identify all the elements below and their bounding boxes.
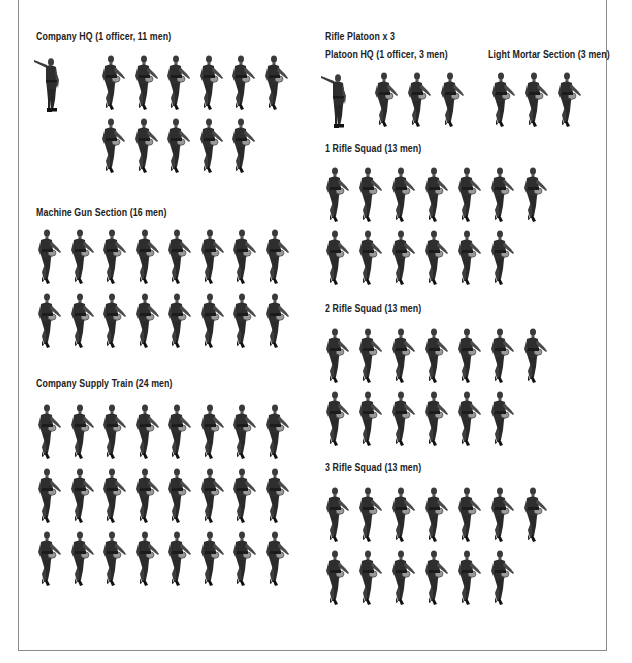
marching-soldier-icon: [166, 467, 194, 525]
marching-soldier-icon: [134, 292, 162, 350]
rifle-squad-3-title: 3 Rifle Squad (13 men): [325, 462, 421, 473]
marching-soldier-icon: [69, 530, 97, 588]
marching-soldier-icon: [198, 54, 226, 112]
marching-soldier-icon: [36, 403, 64, 461]
marching-soldier-icon: [166, 530, 194, 588]
marching-soldier-icon: [101, 530, 129, 588]
marching-soldier-icon: [357, 229, 385, 287]
marching-soldier-icon: [199, 467, 227, 525]
marching-soldier-icon: [456, 327, 484, 385]
marching-soldier-icon: [324, 229, 352, 287]
marching-soldier-icon: [390, 327, 418, 385]
marching-soldier-icon: [390, 486, 418, 544]
marching-soldier-icon: [263, 54, 291, 112]
marching-soldier-icon: [100, 117, 128, 175]
marching-soldier-icon: [69, 467, 97, 525]
marching-soldier-icon: [522, 166, 550, 224]
frame-right-border: [606, 0, 607, 651]
marching-soldier-icon: [101, 403, 129, 461]
marching-soldier-icon: [264, 228, 292, 286]
marching-soldier-icon: [199, 403, 227, 461]
marching-soldier-icon: [523, 71, 551, 129]
marching-soldier-icon: [489, 327, 517, 385]
platoon-hq-title: Platoon HQ (1 officer, 3 men): [325, 49, 448, 60]
frame-bottom-border: [18, 650, 607, 651]
marching-soldier-icon: [101, 467, 129, 525]
marching-soldier-icon: [390, 549, 418, 607]
company-hq-title: Company HQ (1 officer, 11 men): [36, 31, 171, 42]
marching-soldier-icon: [324, 390, 352, 448]
marching-soldier-icon: [439, 71, 467, 129]
marching-soldier-icon: [489, 549, 517, 607]
marching-soldier-icon: [373, 71, 401, 129]
marching-soldier-icon: [423, 327, 451, 385]
marching-soldier-icon: [166, 403, 194, 461]
marching-soldier-icon: [36, 228, 64, 286]
marching-soldier-icon: [134, 228, 162, 286]
marching-soldier-icon: [264, 292, 292, 350]
machine-gun-section-title: Machine Gun Section (16 men): [36, 207, 167, 218]
marching-soldier-icon: [199, 530, 227, 588]
marching-soldier-icon: [230, 117, 258, 175]
marching-soldier-icon: [101, 228, 129, 286]
frame-left-border: [18, 0, 19, 651]
marching-soldier-icon: [231, 292, 259, 350]
marching-soldier-icon: [69, 228, 97, 286]
marching-soldier-icon: [423, 166, 451, 224]
marching-soldier-icon: [231, 467, 259, 525]
marching-soldier-icon: [456, 229, 484, 287]
marching-soldier-icon: [489, 390, 517, 448]
marching-soldier-icon: [264, 403, 292, 461]
marching-soldier-icon: [134, 530, 162, 588]
marching-soldier-icon: [231, 530, 259, 588]
marching-soldier-icon: [423, 229, 451, 287]
marching-soldier-icon: [36, 530, 64, 588]
marching-soldier-icon: [423, 486, 451, 544]
marching-soldier-icon: [166, 228, 194, 286]
light-mortar-section-title: Light Mortar Section (3 men): [488, 49, 610, 60]
marching-soldier-icon: [133, 117, 161, 175]
marching-soldier-icon: [423, 549, 451, 607]
marching-soldier-icon: [406, 71, 434, 129]
marching-soldier-icon: [390, 390, 418, 448]
marching-soldier-icon: [489, 166, 517, 224]
marching-soldier-icon: [230, 54, 258, 112]
marching-soldier-icon: [456, 486, 484, 544]
marching-soldier-icon: [357, 327, 385, 385]
marching-soldier-icon: [134, 467, 162, 525]
marching-soldier-icon: [357, 486, 385, 544]
marching-soldier-icon: [231, 228, 259, 286]
marching-soldier-icon: [423, 390, 451, 448]
rifle-squad-2-title: 2 Rifle Squad (13 men): [325, 303, 421, 314]
marching-soldier-icon: [522, 327, 550, 385]
marching-soldier-icon: [489, 229, 517, 287]
marching-soldier-icon: [36, 292, 64, 350]
marching-soldier-icon: [324, 166, 352, 224]
marching-soldier-icon: [198, 117, 226, 175]
marching-soldier-icon: [264, 467, 292, 525]
marching-soldier-icon: [490, 71, 518, 129]
marching-soldier-icon: [324, 549, 352, 607]
marching-soldier-icon: [199, 292, 227, 350]
marching-soldier-icon: [522, 486, 550, 544]
marching-soldier-icon: [556, 71, 584, 129]
marching-soldier-icon: [100, 54, 128, 112]
marching-soldier-icon: [357, 166, 385, 224]
marching-soldier-icon: [489, 486, 517, 544]
rifle-squad-1-title: 1 Rifle Squad (13 men): [325, 143, 421, 154]
marching-soldier-icon: [324, 486, 352, 544]
marching-soldier-icon: [390, 229, 418, 287]
marching-soldier-icon: [390, 166, 418, 224]
marching-soldier-icon: [166, 292, 194, 350]
marching-soldier-icon: [456, 390, 484, 448]
marching-soldier-icon: [165, 54, 193, 112]
marching-soldier-icon: [231, 403, 259, 461]
company-supply-train-title: Company Supply Train (24 men): [36, 378, 173, 389]
pointing-officer-icon: [34, 56, 64, 114]
marching-soldier-icon: [456, 549, 484, 607]
marching-soldier-icon: [357, 390, 385, 448]
marching-soldier-icon: [324, 327, 352, 385]
marching-soldier-icon: [69, 403, 97, 461]
marching-soldier-icon: [69, 292, 97, 350]
marching-soldier-icon: [199, 228, 227, 286]
